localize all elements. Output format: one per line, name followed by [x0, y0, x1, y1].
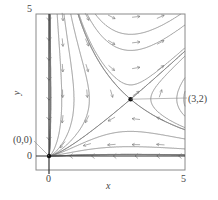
- x-axis-label: x: [106, 181, 110, 191]
- y-tick-0: 0: [27, 151, 32, 161]
- phase-portrait: [0, 0, 218, 200]
- x-tick-5: 5: [181, 174, 186, 184]
- y-tick-5: 5: [27, 4, 32, 14]
- x-tick-0: 0: [46, 174, 51, 184]
- y-axis-label: y: [12, 91, 22, 95]
- equilibrium-label-saddle: (3,2): [188, 94, 207, 104]
- equilibrium-label-origin: (0,0): [13, 135, 32, 145]
- equilibrium-points: [34, 97, 187, 158]
- streamlines: [49, 14, 185, 156]
